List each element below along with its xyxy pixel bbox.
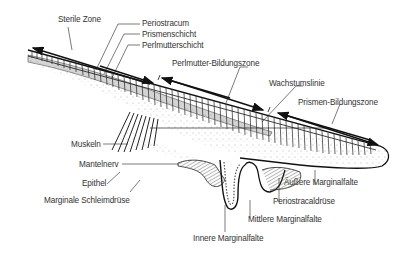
label-muskeln: Muskeln xyxy=(71,141,101,149)
label-periostracum: Periostracum xyxy=(142,20,189,28)
label-aeussere-marginalfalte: Äußere Marginalfalte xyxy=(284,179,358,187)
label-perlmutter-bildungszone: Perlmutter-Bildungszone xyxy=(172,60,259,68)
label-mantelnerv: Mantelnerv xyxy=(79,161,119,169)
label-prismenschicht: Prismenschicht xyxy=(142,31,196,39)
label-innere-marginalfalte: Innere Marginalfalte xyxy=(193,235,263,243)
label-sterile-zone: Sterile Zone xyxy=(58,16,101,24)
label-marginale-schleimdruese: Marginale Schleimdrüse xyxy=(44,197,130,205)
label-epithel: Epithel xyxy=(82,180,106,188)
label-prismen-bildungszone: Prismen-Bildungszone xyxy=(298,99,378,107)
label-mittlere-marginalfalte: Mittlere Marginalfalte xyxy=(248,216,322,224)
label-perlmutterschicht: Perlmutterschicht xyxy=(142,42,204,50)
shell-mantle-cross-section xyxy=(0,0,408,253)
label-wachstumslinie: Wachstumslinie xyxy=(269,80,325,88)
label-periostracaldruese: Periostracaldrüse xyxy=(273,198,335,206)
